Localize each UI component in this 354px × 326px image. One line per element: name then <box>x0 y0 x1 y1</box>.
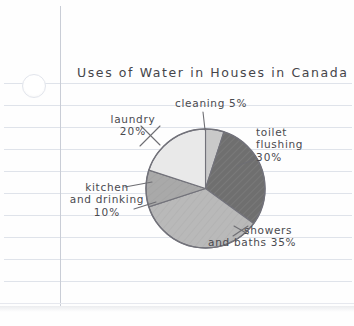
margin-line <box>60 6 61 306</box>
page-bottom-edge <box>0 303 354 304</box>
slice-label-showers-and-baths: showers and baths 35% <box>244 224 296 249</box>
page-title: Uses of Water in Houses in Canada <box>77 66 349 81</box>
page-bottom-shadow <box>0 306 354 312</box>
slice-label-kitchen-value: 10% <box>52 206 162 218</box>
slice-label-showers-name2: and baths 35% <box>208 236 296 248</box>
rule-line <box>4 281 352 282</box>
slice-label-toilet-name1: toilet <box>256 126 303 138</box>
slice-label-toilet-name2: flushing <box>256 138 303 150</box>
slice-label-kitchen-and-drinking: kitchen and drinking 10% <box>52 181 162 218</box>
slice-label-toilet-value: 30% <box>256 151 303 163</box>
slice-label-cleaning: cleaning 5% <box>175 97 247 109</box>
slice-label-laundry-value: 20% <box>103 125 163 137</box>
slice-label-kitchen-name1: kitchen <box>52 181 162 193</box>
rule-line <box>4 259 352 260</box>
slice-label-laundry-name: laundry <box>103 113 163 125</box>
rule-line <box>4 83 352 84</box>
slice-label-showers-name1: showers <box>244 224 296 236</box>
punch-hole-icon <box>22 74 46 98</box>
slice-label-kitchen-name2: and drinking <box>52 193 162 205</box>
notebook-page: Uses of Water in Houses in Canada <box>0 0 354 326</box>
slice-label-cleaning-text: cleaning 5% <box>175 97 247 109</box>
slice-label-laundry: laundry 20% <box>103 113 163 138</box>
slice-label-toilet-flushing: toilet flushing 30% <box>256 126 303 163</box>
